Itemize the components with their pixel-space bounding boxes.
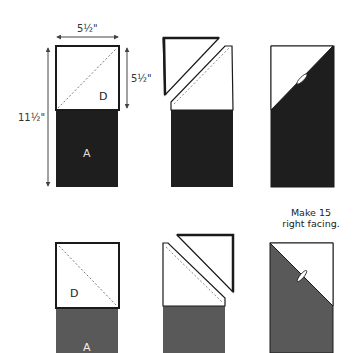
row1-step3-unit: [271, 46, 334, 187]
caption-make-right-facing: Make 15 right facing.: [276, 207, 346, 229]
row1-step1-unit: D A: [56, 46, 119, 187]
dimension-square-height: 5½": [127, 48, 152, 108]
label-a: A: [83, 147, 91, 160]
caption-line-2: right facing.: [276, 218, 346, 229]
row1-step2-unit: [163, 38, 233, 187]
caption-line-1: Make 15: [276, 207, 346, 218]
width-dimension-label: 5½": [77, 23, 98, 34]
total-height-label: 11½": [18, 112, 45, 123]
row2-step1-unit: D A: [56, 243, 119, 353]
row2-step3-unit: [270, 243, 333, 353]
fabric-a-medium: [163, 306, 225, 353]
dimension-width: 5½": [57, 23, 118, 37]
quilt-block-diagram: D A 5½" 5½" 11½" D A: [0, 0, 362, 353]
fabric-a-dark: [171, 110, 233, 187]
row2-step2-unit: [163, 235, 233, 353]
label-d: D: [70, 287, 78, 300]
label-d: D: [99, 90, 107, 103]
dimension-total-height: 11½": [18, 48, 48, 186]
square-height-label: 5½": [131, 73, 152, 84]
label-a: A: [83, 341, 91, 353]
